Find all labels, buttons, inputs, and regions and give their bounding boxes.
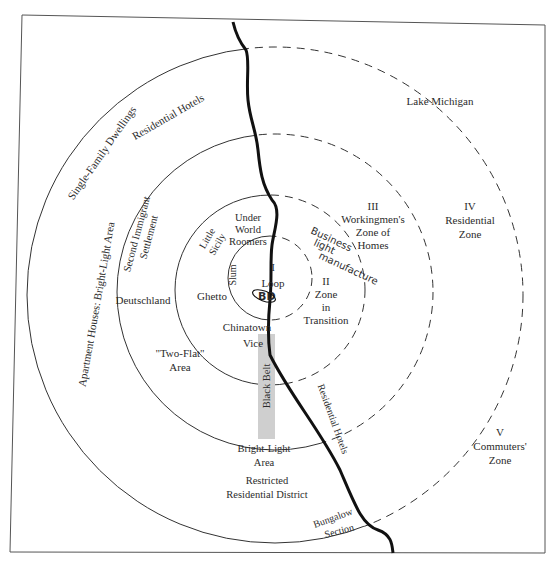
chinatown-label: Chinatown [223, 321, 272, 333]
vice-label: Vice [243, 337, 263, 349]
zone-ii-line-4: Transition [304, 314, 349, 326]
apartment-houses-label: Apartment Houses: Bright-Light Area [76, 221, 117, 388]
ghetto-label: Ghetto [197, 290, 227, 302]
zone-diagram: Lake Michigan Single-Family Dwellings Re… [0, 0, 558, 568]
zone-v-line-2: Commuters' [473, 440, 526, 452]
zone-ii-line-3: in [322, 301, 331, 313]
zone-iv-line-2: Residential [445, 214, 495, 226]
zone-iii-numeral: III [368, 200, 379, 212]
zone-iii-line-2: Workingmen's [341, 213, 404, 225]
black-belt-label: Black Belt [261, 364, 272, 409]
lake-label: Lake Michigan [407, 95, 474, 107]
two-flat-label-1: "Two-Flat" [155, 347, 204, 359]
bright-light-label-1: Bright-Light [237, 443, 290, 454]
restricted-label-1: Restricted [246, 475, 289, 486]
restricted-label-2: Residential District [226, 489, 307, 500]
zone-ii-numeral: II [322, 275, 330, 287]
zone-i-numeral: I [271, 261, 275, 273]
zone-i-name: Loop [261, 277, 285, 289]
residential-hotels-top-label: Residential Hotels [130, 91, 206, 142]
zone-v-line-3: Zone [489, 454, 512, 466]
zone-iv-numeral: IV [464, 200, 476, 212]
zone-v-numeral: V [496, 426, 504, 438]
single-family-label: Single-Family Dwellings [65, 104, 138, 202]
zone-ii-line-2: Zone [315, 288, 338, 300]
bright-light-label-2: Area [254, 457, 275, 468]
under-world-label-1: Under [235, 212, 262, 223]
under-world-label-3: Roomers [229, 236, 267, 247]
slum-label: Slum [227, 264, 238, 285]
deutschland-label: Deutschland [116, 294, 171, 306]
zone-iv-line-3: Zone [459, 228, 482, 240]
residential-hotels-shore-label: Residential Hotels [316, 382, 352, 455]
two-flat-label-2: Area [169, 361, 190, 373]
zone-iii-line-4: Homes [357, 239, 388, 251]
zone-iii-line-3: Zone of [356, 226, 391, 238]
under-world-label-2: World [235, 224, 262, 235]
lake-shoreline [233, 22, 393, 553]
